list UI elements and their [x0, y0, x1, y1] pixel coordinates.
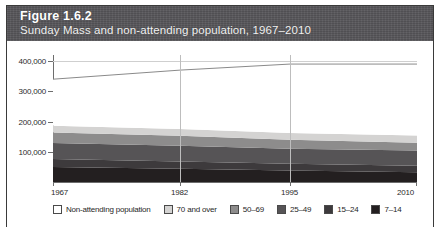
- x-tick-mark: [180, 182, 181, 186]
- x-axis-label: 1995: [281, 188, 298, 197]
- chart-legend: Non-attending population70 and over50–69…: [53, 201, 433, 217]
- legend-swatch: [324, 205, 333, 214]
- figure-title: Sunday Mass and non-attending population…: [20, 24, 311, 36]
- legend-swatch: [230, 205, 239, 214]
- legend-item[interactable]: 50–69: [230, 205, 264, 214]
- x-tick-mark: [53, 182, 54, 186]
- figure-container: Figure 1.6.2 Sunday Mass and non-attendi…: [0, 0, 440, 234]
- plot-area: 100,000200,000300,000400,000 19671982199…: [53, 55, 417, 182]
- legend-item[interactable]: 7–14: [371, 205, 401, 214]
- chart-area: 100,000200,000300,000400,000 19671982199…: [7, 41, 433, 227]
- x-axis-label: 2010: [397, 188, 414, 197]
- legend-label: 50–69: [243, 205, 264, 214]
- legend-item[interactable]: 70 and over: [164, 205, 217, 214]
- y-axis-label: 100,000: [18, 147, 46, 156]
- legend-item[interactable]: Non-attending population: [53, 205, 151, 214]
- legend-label: 70 and over: [177, 205, 217, 214]
- legend-label: Non-attending population: [66, 205, 151, 214]
- legend-label: 15–24: [337, 205, 358, 214]
- figure-number: Figure 1.6.2: [20, 9, 92, 23]
- x-axis-label: 1982: [171, 188, 188, 197]
- area-chart-svg: [53, 55, 417, 182]
- vertical-separator: [180, 55, 181, 182]
- y-axis-label: 200,000: [18, 117, 46, 126]
- vertical-separator: [290, 55, 291, 182]
- x-tick-mark: [290, 182, 291, 186]
- legend-swatch: [371, 205, 380, 214]
- x-tick-mark: [416, 182, 417, 186]
- y-axis-label: 300,000: [18, 87, 46, 96]
- y-axis-label: 400,000: [18, 57, 46, 66]
- figure-header-band: Figure 1.6.2 Sunday Mass and non-attendi…: [7, 6, 433, 41]
- legend-label: 25–49: [290, 205, 311, 214]
- area-band: [53, 64, 417, 135]
- legend-swatch: [277, 205, 286, 214]
- x-axis-label: 1967: [51, 188, 68, 197]
- legend-swatch: [53, 205, 62, 214]
- legend-item[interactable]: 25–49: [277, 205, 311, 214]
- legend-label: 7–14: [384, 205, 401, 214]
- stacked-area-series: [53, 55, 417, 182]
- legend-swatch: [164, 205, 173, 214]
- x-axis-line: [53, 182, 417, 183]
- legend-item[interactable]: 15–24: [324, 205, 358, 214]
